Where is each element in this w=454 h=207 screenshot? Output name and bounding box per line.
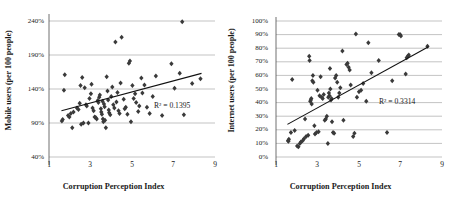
data-point [341,118,345,123]
y-axis-title-left-text: Mobile users (per 100 people) [4,30,13,130]
data-point [289,130,293,135]
data-point [129,119,133,124]
data-point [130,83,134,88]
data-point [328,66,332,71]
data-point [83,85,87,90]
gridlines-left [49,21,215,157]
data-point [136,109,140,114]
y-tick-label: 70% [238,58,268,65]
x-tick-label: 5 [125,161,139,169]
data-point [293,128,297,133]
data-point [118,80,122,85]
y-tick-label: 240% [14,18,44,25]
plot-area-right [276,21,442,157]
x-tick-label: 7 [166,161,180,169]
data-point [122,97,126,102]
data-point [307,58,311,63]
data-point [169,61,173,66]
data-points-left [60,19,203,130]
chart-mobile-users: Mobile users (per 100 people) 240% 190% … [0,0,227,207]
scatter-svg-right [276,21,442,157]
data-point [89,91,93,96]
x-axis-title-right-text: Corruption Perception Index [290,182,392,191]
r-squared-text-left: R² = 0.1395 [154,101,190,110]
data-point [151,94,155,99]
data-point [80,75,84,80]
y-tick-label: 190% [14,52,44,59]
gridlines-right [276,21,442,157]
y-axis-title-right: Internet users (per 100 people) [223,0,239,160]
x-tick-label: 3 [310,161,324,169]
data-point [63,72,67,77]
data-point [326,141,330,146]
data-point [366,40,370,45]
data-point [137,104,141,109]
data-point [385,130,389,135]
data-point [335,80,339,85]
y-tick-label: 140% [14,86,44,93]
x-tick-label: 7 [393,161,407,169]
data-point [70,125,74,130]
data-point [139,76,143,81]
data-point [132,96,136,101]
data-point [390,78,394,83]
data-point [307,54,311,59]
y-tick-label: 10% [238,140,268,147]
data-point [311,73,315,78]
y-tick-label: 90% [238,31,268,38]
trendline-right [287,47,428,125]
data-point [404,72,408,77]
y-tick-label: 0% [238,154,268,161]
x-axis-title-right: Corruption Perception Index [227,182,454,191]
data-point [290,77,294,82]
x-tick-label: 9 [435,161,449,169]
y-tick-label: 90% [14,120,44,127]
data-point [377,58,381,63]
x-axis-title-left: Corruption Perception Index [0,182,227,191]
data-point [86,121,90,126]
data-point [87,96,91,101]
data-point [147,111,151,116]
data-point [113,40,117,45]
x-axis-title-left-text: Corruption Perception Index [63,182,165,191]
r-squared-text-right: R² = 0.3314 [379,97,415,106]
y-tick-label: 30% [238,113,268,120]
data-point [303,116,307,121]
data-point [62,88,66,93]
data-point [115,90,119,95]
data-point [190,81,194,86]
plot-area-left [49,21,215,157]
y-tick-label: 50% [238,86,268,93]
data-point [114,99,118,104]
data-point [154,74,158,79]
y-tick-label: 60% [238,72,268,79]
data-point [160,113,164,118]
data-point [312,123,316,128]
data-point [369,70,373,75]
y-tick-label: 40% [14,154,44,161]
data-point [125,112,129,117]
y-axis-title-right-text: Internet users (per 100 people) [227,28,236,132]
y-tick-label: 20% [238,126,268,133]
chart-internet-users: Internet users (per 100 people) 0%10%20%… [227,0,454,207]
data-point [178,71,182,76]
x-tick-label: 1 [42,161,56,169]
data-point [315,88,319,93]
y-tick-label: 100% [238,18,268,25]
data-point [180,19,184,24]
data-point [355,95,359,100]
r-squared-label-right: R² = 0.3314 [379,97,415,106]
data-point [78,83,82,88]
figure-container: Mobile users (per 100 people) 240% 190% … [0,0,454,207]
data-point [354,31,358,36]
data-point [172,86,176,91]
data-point [330,119,334,124]
data-point [145,105,149,110]
data-point [140,91,144,96]
data-point [349,82,353,87]
data-point [182,112,186,117]
data-point [364,99,368,104]
x-tick-label: 5 [352,161,366,169]
data-point [198,76,202,81]
data-point [134,100,138,105]
